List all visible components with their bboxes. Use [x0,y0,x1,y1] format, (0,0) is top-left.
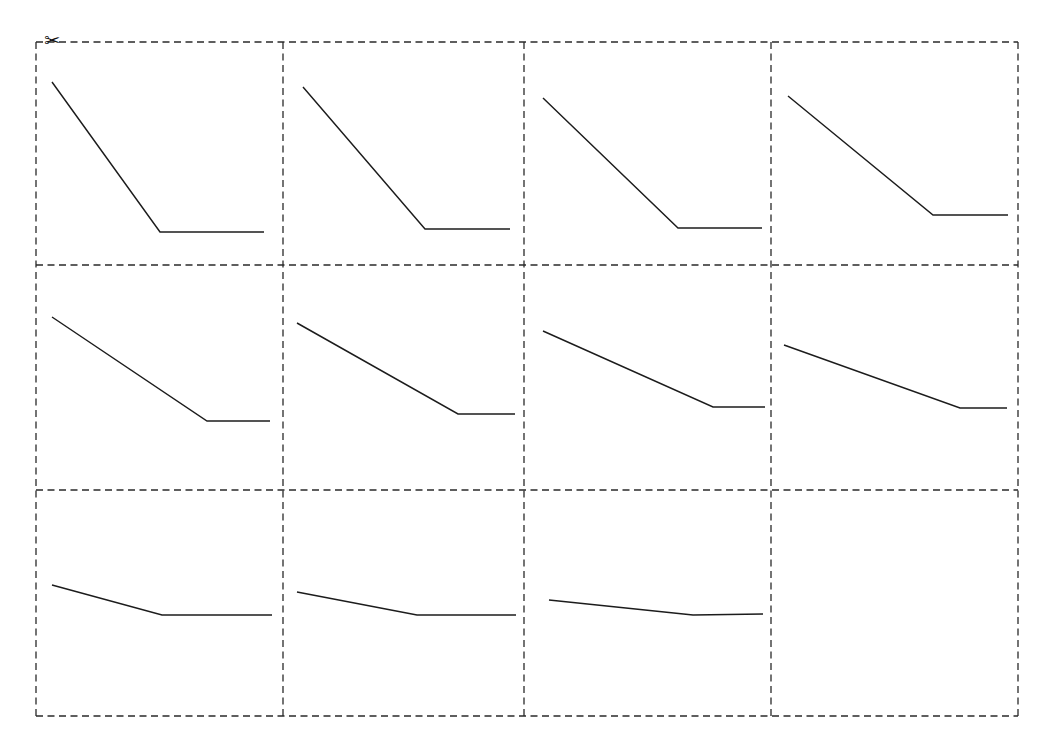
panel-card-9[interactable] [36,490,283,716]
panel-card-11[interactable] [524,490,771,716]
panel-cards [36,42,1018,716]
panel-card-3[interactable] [524,42,771,265]
panel-card-1[interactable] [36,42,283,265]
panel-card-2[interactable] [283,42,524,265]
panel-card-5[interactable] [36,265,283,490]
panel-card-7[interactable] [524,265,771,490]
panel-card-10[interactable] [283,490,524,716]
panel-card-8[interactable] [771,265,1018,490]
panel-card-4[interactable] [771,42,1018,265]
panel-card-12[interactable] [771,490,1018,716]
panel-card-6[interactable] [283,265,524,490]
cut-out-sheet: ✂ [0,0,1037,744]
